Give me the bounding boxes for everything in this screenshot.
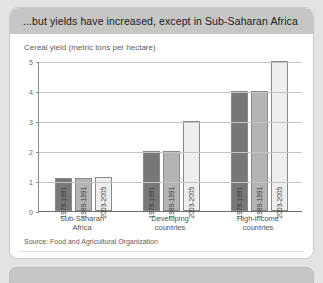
source-note: Source: Food and Agricultural Organizati… xyxy=(24,238,158,245)
bar[interactable]: 1989-1991 xyxy=(251,91,268,211)
y-tickmark-0 xyxy=(36,212,39,213)
card-body: Cereal yield (metric tons per hectare) 0… xyxy=(10,34,313,259)
source-divider xyxy=(19,251,304,252)
y-tickmark-5 xyxy=(36,62,39,63)
y-tickmark-2 xyxy=(36,152,39,153)
bar[interactable]: 1979-1981 xyxy=(231,91,248,211)
y-axis-labels: 012345 xyxy=(24,62,36,212)
y-axis-tick-3: 3 xyxy=(29,119,33,126)
y-axis-tick-2: 2 xyxy=(29,149,33,156)
gridline-1 xyxy=(39,182,302,183)
gridline-5 xyxy=(39,62,302,63)
y-tickmark-1 xyxy=(36,182,39,183)
page-root: ...but yields have increased, except in … xyxy=(0,0,323,283)
y-axis-tick-1: 1 xyxy=(29,179,33,186)
category-label-2: Developingcountries xyxy=(126,214,214,233)
bar-group-2: 1979-19811989-19912003-2005 xyxy=(127,62,215,211)
category-label-1: Sub-SaharanAfrica xyxy=(38,214,126,233)
next-panel-header xyxy=(9,267,314,283)
y-axis-tick-0: 0 xyxy=(29,209,33,216)
gridline-3 xyxy=(39,122,302,123)
category-label-3: High-incomecountries xyxy=(214,214,302,233)
bar[interactable]: 1989-1991 xyxy=(163,151,180,211)
chart-card: ...but yields have increased, except in … xyxy=(9,7,314,259)
bar[interactable]: 2003-2005 xyxy=(183,121,200,211)
card-header: ...but yields have increased, except in … xyxy=(10,8,313,34)
page-title: ...but yields have increased, except in … xyxy=(23,15,298,27)
y-tickmark-3 xyxy=(36,122,39,123)
bar-chart: 012345 1979-19811989-19912003-20051979-1… xyxy=(24,62,302,227)
bar-group-3: 1979-19811989-19912003-2005 xyxy=(215,62,303,211)
bar-groups: 1979-19811989-19912003-20051979-19811989… xyxy=(39,62,302,211)
bar-group-1: 1979-19811989-19912003-2005 xyxy=(39,62,127,211)
chart-subtitle: Cereal yield (metric tons per hectare) xyxy=(24,43,156,52)
y-axis-tick-5: 5 xyxy=(29,59,33,66)
bar[interactable]: 1979-1981 xyxy=(143,151,160,211)
plot-area: 1979-19811989-19912003-20051979-19811989… xyxy=(38,62,302,212)
gridline-2 xyxy=(39,152,302,153)
y-tickmark-4 xyxy=(36,92,39,93)
bar[interactable]: 2003-2005 xyxy=(271,61,288,211)
gridline-4 xyxy=(39,92,302,93)
x-axis-category-labels: Sub-SaharanAfricaDevelopingcountriesHigh… xyxy=(38,214,302,240)
y-axis-tick-4: 4 xyxy=(29,89,33,96)
